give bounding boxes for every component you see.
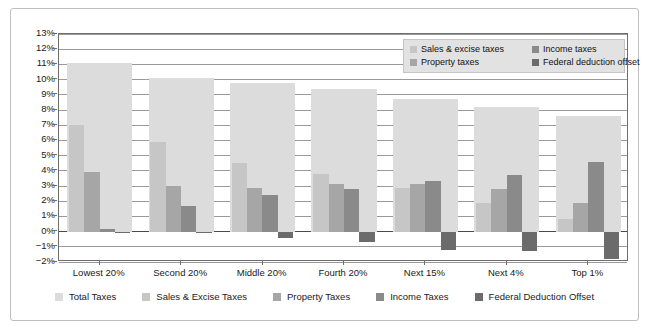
y-axis-tick-label: 1%	[17, 210, 55, 220]
inner-legend-label: Property taxes	[421, 57, 479, 67]
bar-federal-deduction-offset	[278, 232, 293, 238]
x-axis-tick-label: Lowest 20%	[73, 267, 125, 278]
bar-group	[149, 34, 214, 260]
y-axis-tick-label: 9%	[17, 89, 55, 99]
legend-swatch-icon	[55, 293, 63, 301]
y-axis-tick-label: 11%	[17, 58, 55, 68]
x-axis-tick-label: Middle 20%	[237, 267, 287, 278]
bottom-legend-item: Sales & Excise Taxes	[142, 291, 247, 302]
y-axis: 13%12%11%10%9%8%7%6%5%4%3%2%1%0%−1%−2%	[11, 33, 55, 261]
bar-sales-excise-taxes	[232, 163, 247, 231]
bottom-legend-item: Total Taxes	[55, 291, 116, 302]
bottom-legend-item: Federal Deduction Offset	[475, 291, 594, 302]
y-axis-tick-mark	[52, 33, 57, 34]
y-axis-tick-mark	[52, 48, 57, 49]
bar-group	[311, 34, 376, 260]
bar-sales-excise-taxes	[313, 174, 328, 232]
y-axis-tick-mark	[52, 185, 57, 186]
chart-figure: 13%12%11%10%9%8%7%6%5%4%3%2%1%0%−1%−2% S…	[10, 8, 639, 321]
bottom-legend-item: Property Taxes	[273, 291, 350, 302]
bar-property-taxes	[329, 184, 344, 231]
bottom-legend-label: Property Taxes	[287, 291, 350, 302]
bottom-legend-label: Sales & Excise Taxes	[156, 291, 247, 302]
x-axis-tick-label: Top 1%	[571, 267, 603, 278]
bar-property-taxes	[410, 184, 425, 231]
y-axis-tick-label: 5%	[17, 150, 55, 160]
bar-income-taxes	[425, 181, 440, 231]
bar-income-taxes	[100, 229, 115, 232]
x-axis-tick-label: Next 4%	[488, 267, 524, 278]
inner-legend-item: Income taxes	[532, 44, 639, 54]
y-axis-tick-mark	[52, 230, 57, 231]
bar-property-taxes	[84, 172, 99, 231]
y-axis-tick-mark	[52, 63, 57, 64]
bar-income-taxes	[507, 175, 522, 231]
bar-sales-excise-taxes	[476, 203, 491, 232]
x-axis-tick-label: Second 20%	[153, 267, 207, 278]
bar-property-taxes	[491, 189, 506, 232]
y-axis-tick-label: 7%	[17, 119, 55, 129]
bottom-legend-item: Income Taxes	[376, 291, 448, 302]
y-axis-tick-mark	[52, 109, 57, 110]
y-axis-tick-mark	[52, 139, 57, 140]
bar-sales-excise-taxes	[395, 188, 410, 232]
bar-sales-excise-taxes	[558, 219, 573, 231]
bar-federal-deduction-offset	[604, 232, 619, 259]
y-axis-tick-mark	[52, 169, 57, 170]
bar-income-taxes	[588, 162, 603, 232]
bar-property-taxes	[247, 188, 262, 232]
inner-legend-label: Income taxes	[543, 44, 597, 54]
legend-swatch-icon	[273, 293, 281, 301]
legend-swatch-icon	[142, 293, 150, 301]
inner-legend-item: Property taxes	[410, 57, 532, 67]
bottom-legend-label: Total Taxes	[69, 291, 116, 302]
legend-swatch-icon	[410, 46, 417, 53]
y-axis-tick-mark	[52, 200, 57, 201]
bottom-legend-label: Federal Deduction Offset	[489, 291, 594, 302]
inner-legend: Sales & excise taxesIncome taxesProperty…	[403, 39, 625, 73]
bar-federal-deduction-offset	[196, 232, 211, 234]
x-axis-tick-mark	[262, 261, 263, 265]
legend-swatch-icon	[475, 293, 483, 301]
y-axis-tick-label: 0%	[17, 226, 55, 236]
legend-swatch-icon	[532, 59, 539, 66]
y-axis-tick-mark	[52, 78, 57, 79]
inner-legend-item: Sales & excise taxes	[410, 44, 532, 54]
inner-legend-label: Federal deduction offset	[543, 57, 639, 67]
x-axis-tick-mark	[506, 261, 507, 265]
x-axis-tick-mark	[424, 261, 425, 265]
bar-property-taxes	[573, 203, 588, 232]
inner-legend-label: Sales & excise taxes	[421, 44, 504, 54]
bar-income-taxes	[262, 195, 277, 231]
bar-property-taxes	[166, 186, 181, 232]
y-axis-tick-label: 12%	[17, 43, 55, 53]
x-axis-tick-mark	[99, 261, 100, 265]
y-axis-tick-mark	[52, 124, 57, 125]
y-axis-tick-mark	[52, 93, 57, 94]
x-axis-tick-label: Next 15%	[404, 267, 445, 278]
legend-swatch-icon	[532, 46, 539, 53]
bar-federal-deduction-offset	[359, 232, 374, 243]
y-axis-tick-mark	[52, 245, 57, 246]
bar-sales-excise-taxes	[150, 142, 165, 232]
y-axis-tick-label: 4%	[17, 165, 55, 175]
bar-sales-excise-taxes	[69, 125, 84, 231]
bar-income-taxes	[181, 206, 196, 232]
y-axis-tick-label: −2%	[17, 256, 55, 266]
x-axis-tick-mark	[180, 261, 181, 265]
y-axis-tick-label: 3%	[17, 180, 55, 190]
x-axis-tick-label: Fourth 20%	[318, 267, 367, 278]
y-axis-tick-label: 13%	[17, 28, 55, 38]
y-axis-tick-label: 6%	[17, 134, 55, 144]
y-axis-tick-label: 8%	[17, 104, 55, 114]
y-axis-tick-mark	[52, 154, 57, 155]
y-axis-tick-label: 2%	[17, 195, 55, 205]
bar-federal-deduction-offset	[441, 232, 456, 250]
legend-swatch-icon	[410, 59, 417, 66]
y-axis-tick-label: 10%	[17, 74, 55, 84]
y-axis-tick-mark	[52, 215, 57, 216]
bottom-legend: Total TaxesSales & Excise TaxesProperty …	[11, 291, 638, 302]
bar-federal-deduction-offset	[522, 232, 537, 252]
legend-swatch-icon	[376, 293, 384, 301]
y-axis-tick-label: −1%	[17, 241, 55, 251]
